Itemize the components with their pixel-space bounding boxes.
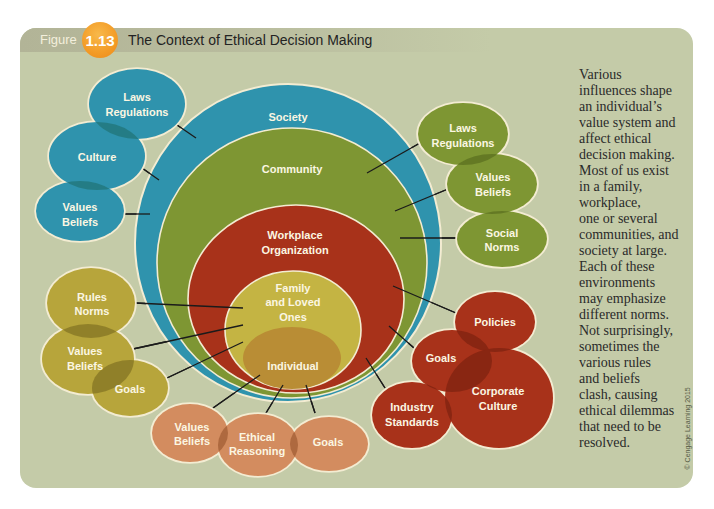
figure-caption: Various influences shape an individual’s… <box>579 67 679 451</box>
caption-line: different norms. <box>579 307 679 323</box>
society-values-label-line2: Beliefs <box>62 216 98 228</box>
caption-line: in a family, <box>579 179 679 195</box>
caption-line: value system and <box>579 115 679 131</box>
family-label-line1: Family <box>276 282 312 294</box>
family-goals-label: Goals <box>115 383 146 395</box>
caption-line: environments <box>579 275 679 291</box>
copyright-notice: © Cengage Learning 2015 <box>684 390 691 470</box>
caption-line: Various <box>579 67 679 83</box>
workplace-goals-label: Goals <box>426 352 457 364</box>
caption-line: workplace, <box>579 195 679 211</box>
workplace-label-line2: Organization <box>261 244 329 256</box>
caption-line: one or several <box>579 211 679 227</box>
individual-values-label-line1: Values <box>175 421 210 433</box>
caption-line: an individual’s <box>579 99 679 115</box>
caption-line: Not surprisingly, <box>579 323 679 339</box>
society-laws-label-line2: Regulations <box>106 106 169 118</box>
community-social-label-line2: Norms <box>485 241 520 253</box>
individual-ethical-label-line1: Ethical <box>239 431 275 443</box>
caption-line: may emphasize <box>579 291 679 307</box>
workplace-industry-bubble <box>372 382 452 448</box>
caption-line: affect ethical <box>579 131 679 147</box>
caption-line: communities, and <box>579 227 679 243</box>
community-social-bubble <box>457 211 547 267</box>
individual-influences-group: Values Beliefs Ethical Reasoning Goals <box>152 404 368 476</box>
caption-line: and beliefs <box>579 371 679 387</box>
society-laws-label-line1: Laws <box>123 91 151 103</box>
individual-label: Individual <box>267 360 318 372</box>
workplace-industry-label-line1: Industry <box>390 401 434 413</box>
caption-line: Each of these <box>579 259 679 275</box>
caption-line: that need to be <box>579 419 679 435</box>
community-laws-label-line1: Laws <box>449 122 477 134</box>
caption-line: sometimes the <box>579 339 679 355</box>
individual-values-bubble <box>152 404 228 462</box>
workplace-culture-label-line1: Corporate <box>472 385 525 397</box>
caption-line: ethical dilemmas <box>579 403 679 419</box>
community-label: Community <box>262 163 323 175</box>
individual-circle <box>243 327 341 389</box>
community-social-label-line1: Social <box>486 227 518 239</box>
caption-line: various rules <box>579 355 679 371</box>
family-values-label-line1: Values <box>68 345 103 357</box>
caption-line: clash, causing <box>579 387 679 403</box>
caption-line: resolved. <box>579 435 679 451</box>
caption-line: decision making. <box>579 147 679 163</box>
workplace-policies-label: Policies <box>474 316 516 328</box>
community-laws-label-line2: Regulations <box>432 137 495 149</box>
society-label: Society <box>268 111 308 123</box>
family-rules-label-line2: Norms <box>75 305 110 317</box>
individual-ethical-label-line2: Reasoning <box>229 445 285 457</box>
workplace-culture-label-line2: Culture <box>479 400 518 412</box>
individual-values-label-line2: Beliefs <box>174 435 210 447</box>
community-values-label-line2: Beliefs <box>475 186 511 198</box>
individual-goals-label: Goals <box>313 436 344 448</box>
society-culture-label: Culture <box>78 151 117 163</box>
workplace-industry-label-line2: Standards <box>385 416 439 428</box>
family-values-label-line2: Beliefs <box>67 360 103 372</box>
caption-line: Most of us exist <box>579 163 679 179</box>
society-values-label-line1: Values <box>63 201 98 213</box>
concentric-circles <box>135 84 441 402</box>
workplace-label-line1: Workplace <box>267 229 322 241</box>
community-values-label-line1: Values <box>476 171 511 183</box>
family-label-line3: Ones <box>279 311 307 323</box>
family-rules-label-line1: Rules <box>77 291 107 303</box>
family-label-line2: and Loved <box>265 296 320 308</box>
caption-line: influences shape <box>579 83 679 99</box>
caption-line: society at large. <box>579 243 679 259</box>
